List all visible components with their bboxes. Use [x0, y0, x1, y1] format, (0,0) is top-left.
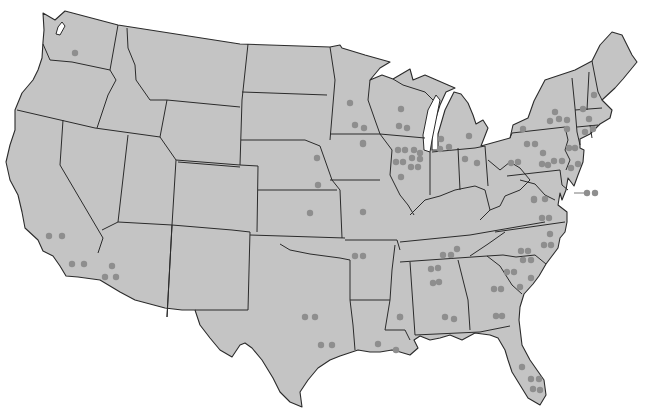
location-dot [564, 126, 570, 132]
location-dot [417, 156, 423, 162]
location-dot [528, 275, 534, 281]
location-dot [396, 123, 402, 129]
location-dot [586, 116, 592, 122]
location-dot [109, 263, 115, 269]
location-dot [415, 164, 421, 170]
location-dot [592, 190, 598, 196]
location-dot [352, 122, 358, 128]
location-dot [493, 313, 499, 319]
location-dot [559, 158, 565, 164]
location-dot [395, 147, 401, 153]
location-dot [532, 141, 538, 147]
location-dot [547, 118, 553, 124]
location-dot [546, 215, 552, 221]
location-dot [400, 159, 406, 165]
location-dot [591, 92, 597, 98]
location-dot [547, 231, 553, 237]
location-dot [537, 387, 543, 393]
location-dot [408, 164, 414, 170]
location-dot [102, 274, 108, 280]
location-dot [81, 261, 87, 267]
location-dot [539, 161, 545, 167]
location-dot [545, 162, 551, 168]
location-dot [517, 284, 523, 290]
location-dot [347, 100, 353, 106]
location-dot [436, 279, 442, 285]
location-dot [446, 144, 452, 150]
location-dot [466, 133, 472, 139]
location-dot [409, 155, 415, 161]
location-dot [442, 314, 448, 320]
location-dot [520, 257, 526, 263]
location-dot [556, 116, 562, 122]
location-dot [590, 126, 596, 132]
location-dot [536, 376, 542, 382]
location-dot [417, 150, 423, 156]
location-dot [566, 145, 572, 151]
location-dot [59, 233, 65, 239]
location-dot [393, 347, 399, 353]
location-dot [582, 129, 588, 135]
location-dot [315, 182, 321, 188]
location-dot [430, 280, 436, 286]
location-dot [438, 136, 444, 142]
location-dot [491, 286, 497, 292]
location-dot [498, 286, 504, 292]
location-dot [72, 50, 78, 56]
location-dot [520, 126, 526, 132]
location-dot [580, 106, 586, 112]
location-dot [564, 117, 570, 123]
location-dot [360, 209, 366, 215]
location-dot [329, 342, 335, 348]
location-dot [504, 269, 510, 275]
location-dot [548, 242, 554, 248]
location-dot [584, 190, 590, 196]
location-dot [69, 261, 75, 267]
location-dot [511, 269, 517, 275]
location-dot [440, 252, 446, 258]
location-dot [528, 376, 534, 382]
location-dot [531, 196, 537, 202]
location-dot [462, 156, 468, 162]
location-dot [448, 252, 454, 258]
location-dot [398, 174, 404, 180]
location-dot [525, 248, 531, 254]
location-dot [568, 165, 574, 171]
location-dot [499, 313, 505, 319]
location-dot [437, 146, 443, 152]
location-dot [360, 141, 366, 147]
location-dot [540, 150, 546, 156]
location-dot [524, 141, 530, 147]
location-dot [397, 314, 403, 320]
location-dot [360, 253, 366, 259]
location-dot [307, 210, 313, 216]
location-dot [113, 274, 119, 280]
location-dot [314, 155, 320, 161]
location-dot [352, 253, 358, 259]
location-dot [302, 314, 308, 320]
location-dot [398, 106, 404, 112]
location-dot [515, 159, 521, 165]
location-dot [528, 257, 534, 263]
us-map [0, 0, 649, 420]
location-dot [46, 233, 52, 239]
location-dot [552, 109, 558, 115]
location-dot [402, 147, 408, 153]
location-dot [539, 215, 545, 221]
location-dot [474, 160, 480, 166]
location-dot [318, 342, 324, 348]
location-dot [411, 147, 417, 153]
location-dot [404, 125, 410, 131]
location-dot [393, 159, 399, 165]
location-dot [551, 158, 557, 164]
location-dot [451, 316, 457, 322]
location-dot [542, 196, 548, 202]
location-dot [541, 242, 547, 248]
location-dot [428, 266, 434, 272]
location-dot [519, 364, 525, 370]
location-dot [312, 314, 318, 320]
location-dot [530, 386, 536, 392]
location-dot [508, 160, 514, 166]
location-dot [435, 265, 441, 271]
location-dot [454, 246, 460, 252]
